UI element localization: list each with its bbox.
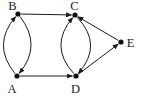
node-label-C: C xyxy=(70,0,78,13)
node-E xyxy=(118,39,123,44)
node-label-E: E xyxy=(127,36,135,50)
edge-A-B xyxy=(3,17,15,74)
node-label-A: A xyxy=(7,82,16,96)
edge-D-E xyxy=(79,44,119,74)
node-A xyxy=(14,73,19,78)
node-label-D: D xyxy=(71,82,80,96)
edge-D-C xyxy=(61,18,74,74)
directed-graph-diagram: ABCDE xyxy=(0,0,142,97)
node-D xyxy=(73,73,78,78)
node-C xyxy=(72,12,77,17)
edge-E-C xyxy=(78,17,118,41)
edge-B-A xyxy=(19,17,31,74)
graph-canvas: ABCDE xyxy=(0,0,142,97)
edge-B-C xyxy=(21,14,71,15)
node-label-B: B xyxy=(8,0,16,13)
edge-C-D xyxy=(77,17,90,73)
